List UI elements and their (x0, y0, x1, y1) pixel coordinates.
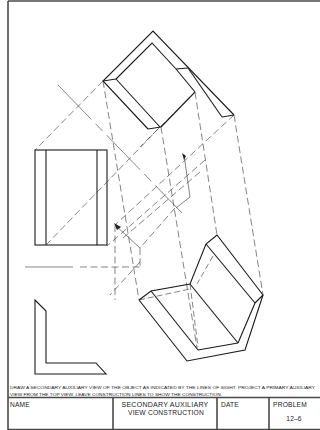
problem-number: 12–6 (286, 415, 302, 422)
instruction-line-1: DRAW A SECONDARY AUXILIARY VIEW OF THE O… (10, 385, 315, 390)
arrow-icon (182, 153, 186, 160)
drawing-title-line-2: VIEW CONSTRUCTION (128, 409, 204, 416)
primary-auxiliary-view (139, 235, 263, 361)
instruction-line-2: VIEW FROM THE TOP VIEW. LEAVE CONSTRUCTI… (10, 392, 222, 397)
title-block: NAME SECONDARY AUXILIARY VIEW CONSTRUCTI… (8, 398, 320, 430)
instructions: DRAW A SECONDARY AUXILIARY VIEW OF THE O… (10, 385, 315, 397)
drawing-title-line-1: SECONDARY AUXILIARY (122, 401, 209, 408)
sheet-border (8, 1, 320, 430)
name-field-label: NAME (10, 401, 30, 408)
date-field-label: DATE (221, 401, 239, 408)
side-view (35, 300, 106, 374)
construction-lines (35, 81, 263, 348)
drawing-sheet: DRAW A SECONDARY AUXILIARY VIEW OF THE O… (0, 0, 320, 430)
top-view (103, 31, 234, 129)
problem-label: PROBLEM (273, 401, 307, 408)
front-view (35, 150, 107, 245)
